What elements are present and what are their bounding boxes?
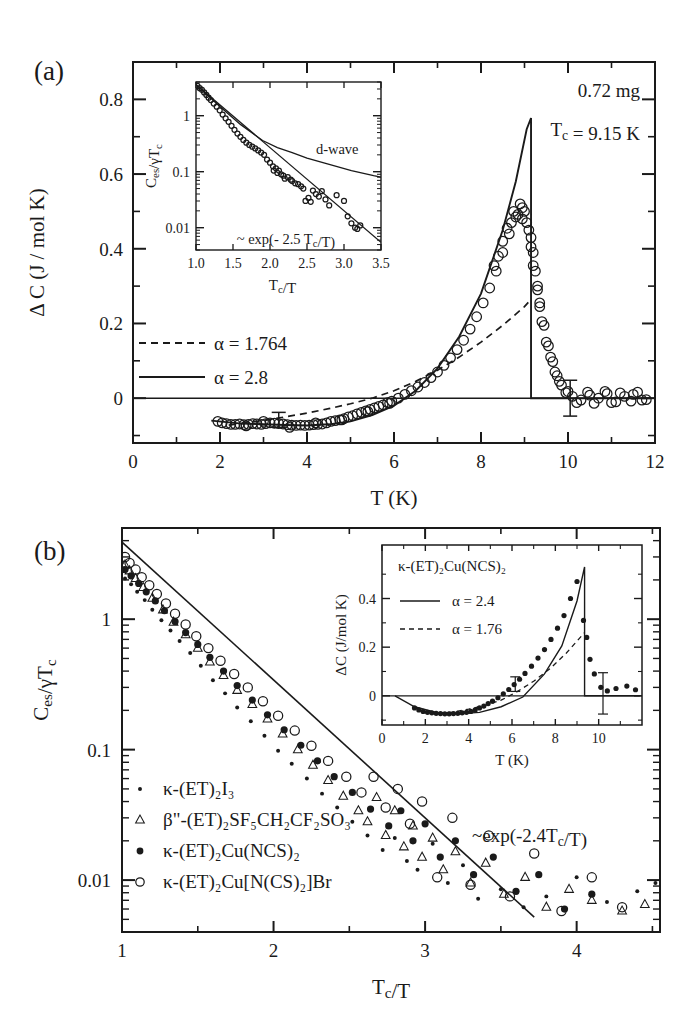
data-point-filled-circle bbox=[349, 789, 356, 796]
data-point-filled-circle bbox=[535, 871, 542, 878]
data-point-small-dot bbox=[461, 863, 465, 867]
data-point-open-circle bbox=[417, 797, 426, 806]
data-point-small-dot bbox=[305, 777, 309, 781]
panel-b-xtick-label: 4 bbox=[572, 940, 582, 961]
panel-a-xtick-label: 10 bbox=[559, 451, 578, 472]
data-point-filled-circle bbox=[624, 683, 629, 688]
data-point-small-dot bbox=[381, 848, 385, 852]
data-point-filled-circle bbox=[555, 626, 560, 631]
data-point-open-circle bbox=[258, 697, 267, 706]
panel-a-xtick-label: 6 bbox=[389, 451, 399, 472]
data-point-open-circle bbox=[446, 353, 456, 363]
data-point-filled-circle bbox=[470, 871, 477, 878]
data-point-filled-circle bbox=[529, 664, 534, 669]
data-point-filled-circle bbox=[194, 641, 201, 648]
panel-b-xtick-label: 3 bbox=[420, 940, 430, 961]
data-point-filled-circle bbox=[220, 667, 227, 674]
data-point-filled-circle bbox=[613, 686, 618, 691]
data-point-small-dot bbox=[366, 833, 370, 837]
panel-a-legend-label-alpha-1764: α = 1.764 bbox=[214, 333, 287, 354]
data-point-open-circle bbox=[230, 669, 239, 678]
data-point-small-dot bbox=[405, 859, 409, 863]
data-point-filled-circle bbox=[522, 671, 527, 676]
data-point-small-dot bbox=[169, 628, 173, 632]
data-point-filled-circle bbox=[367, 806, 374, 813]
data-point-open-circle bbox=[478, 298, 488, 308]
data-point-filled-circle bbox=[421, 820, 428, 827]
data-point-open-triangle bbox=[400, 842, 409, 850]
data-point-open-circle bbox=[152, 589, 161, 598]
data-point-open-triangle bbox=[640, 900, 649, 908]
data-point-filled-circle bbox=[490, 699, 495, 704]
data-point-open-circle bbox=[170, 609, 179, 618]
panel-b-ytick-label: 0.1 bbox=[87, 740, 111, 761]
panel-a-label: (a) bbox=[34, 56, 64, 86]
data-point-small-dot bbox=[178, 639, 182, 643]
panel-a-legend-label-alpha-28: α = 2.8 bbox=[214, 367, 268, 388]
data-point-filled-circle bbox=[495, 695, 500, 700]
data-point-open-circle bbox=[583, 387, 593, 397]
data-point-filled-circle bbox=[297, 742, 304, 749]
panel-a-ytick-label: 0.2 bbox=[99, 313, 123, 334]
data-point-open-triangle bbox=[418, 852, 427, 860]
data-point-filled-circle bbox=[264, 711, 271, 718]
data-point-small-dot bbox=[476, 897, 480, 901]
data-point-open-triangle bbox=[381, 830, 390, 838]
data-point-small-dot bbox=[416, 868, 420, 872]
panel-b-ytick-label: 0.01 bbox=[78, 870, 111, 891]
data-point-small-dot bbox=[350, 820, 354, 824]
data-point-small-dot bbox=[123, 577, 127, 581]
panel-a-legend: α = 1.764α = 2.8 bbox=[139, 333, 287, 388]
panel-b-legend-marker bbox=[137, 848, 144, 855]
data-point-filled-circle bbox=[581, 618, 586, 623]
panel-a-xaxis-title: T (K) bbox=[371, 486, 418, 510]
data-point-open-triangle bbox=[339, 791, 348, 799]
panel-a-yaxis-title: Δ C (J / mol K) bbox=[25, 188, 49, 316]
data-point-filled-circle bbox=[314, 757, 321, 764]
data-point-open-circle bbox=[452, 345, 462, 355]
data-point-filled-circle bbox=[587, 657, 592, 662]
data-point-open-circle bbox=[204, 644, 213, 653]
inset-b-legend-label-alpha-176: α = 1.76 bbox=[452, 621, 503, 637]
inset-b-xtick-label: 6 bbox=[509, 731, 516, 746]
data-point-small-dot bbox=[235, 706, 239, 710]
data-point-filled-circle bbox=[206, 654, 213, 661]
panel-a-mass-annotation: 0.72 mg bbox=[578, 80, 641, 101]
inset-b-xaxis-title: T (K) bbox=[495, 752, 528, 769]
data-point-open-circle bbox=[491, 266, 501, 276]
panel-b-legend-marker bbox=[136, 878, 144, 886]
data-point-open-circle bbox=[448, 813, 457, 822]
inset-a-xtick-label: 2.5 bbox=[298, 256, 316, 271]
data-point-filled-circle bbox=[605, 688, 610, 693]
panel-b-xtick-label: 1 bbox=[117, 940, 127, 961]
panel-b-legend-label: κ-(ET)₂Cu(NCS)₂ bbox=[163, 840, 300, 862]
data-point-filled-circle bbox=[385, 822, 392, 829]
data-point-open-triangle bbox=[363, 817, 372, 825]
data-point-filled-circle bbox=[588, 891, 595, 898]
inset-a-yaxis-title: Ces/γTc bbox=[143, 144, 164, 188]
data-point-small-dot bbox=[249, 719, 253, 723]
data-point-filled-circle bbox=[535, 656, 540, 661]
data-point-small-dot bbox=[605, 900, 609, 904]
panel-b-legend-label: β"-(ET)₂SF₅CH₂CF₂SO₃ bbox=[163, 809, 351, 831]
inset-a: 1.01.52.02.53.03.50.010.11Tc/TCes/γTcd-w… bbox=[143, 82, 390, 296]
data-point-small-dot bbox=[320, 792, 324, 796]
data-point-small-dot bbox=[544, 894, 548, 898]
inset-b-ytick-label: 0.4 bbox=[359, 592, 377, 607]
data-point-open-circle bbox=[290, 726, 299, 735]
data-point-filled-circle bbox=[501, 691, 506, 696]
data-point-small-dot bbox=[653, 881, 657, 885]
inset-b-xtick-label: 0 bbox=[379, 731, 386, 746]
data-point-open-circle bbox=[216, 656, 225, 665]
panel-a-xtick-label: 4 bbox=[302, 451, 312, 472]
data-point-small-dot bbox=[499, 887, 503, 891]
panel-a-ytick-label: 0.8 bbox=[99, 89, 123, 110]
data-point-open-triangle bbox=[565, 884, 574, 892]
data-point-open-circle bbox=[587, 873, 596, 882]
data-point-filled-circle bbox=[490, 854, 497, 861]
inset-b-xtick-label: 2 bbox=[422, 731, 429, 746]
panel-a-fit-alpha-1764 bbox=[229, 299, 531, 425]
panel-b-legend-label: κ-(ET)₂I₃ bbox=[163, 778, 234, 800]
data-point-filled-circle bbox=[182, 629, 189, 636]
data-point-open-circle bbox=[528, 261, 538, 271]
